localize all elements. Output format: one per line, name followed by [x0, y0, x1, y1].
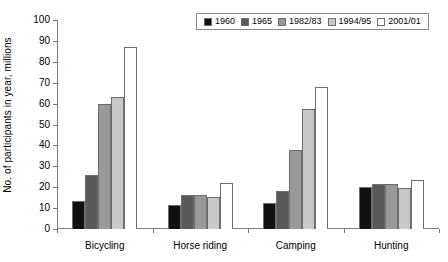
y-tick-mark	[53, 125, 57, 126]
bar[interactable]	[359, 187, 372, 229]
legend-label: 2001/01	[388, 17, 421, 26]
y-tick-mark	[53, 145, 57, 146]
y-tick-mark	[53, 62, 57, 63]
legend-item[interactable]: 1965	[241, 17, 272, 26]
y-tick-mark	[53, 208, 57, 209]
y-axis-title-label: No. of participants in year, millions	[3, 37, 13, 192]
y-tick-label: 80	[39, 57, 50, 67]
x-tick-mark	[248, 229, 249, 233]
bar[interactable]	[220, 183, 233, 229]
bar[interactable]	[315, 87, 328, 229]
legend-item[interactable]: 1982/83	[278, 17, 322, 26]
legend-swatch-icon	[241, 18, 249, 26]
x-axis-category-label: Bicycling	[72, 241, 137, 251]
x-axis-category-label: Camping	[263, 241, 328, 251]
legend-swatch-icon	[278, 18, 286, 26]
x-axis-category-label: Hunting	[359, 241, 424, 251]
bar[interactable]	[98, 104, 111, 229]
bar-group: Horse riding	[168, 20, 233, 229]
legend: 196019651982/831994/952001/01	[196, 13, 429, 30]
x-tick-mark	[344, 229, 345, 233]
y-tick-label: 90	[39, 36, 50, 46]
x-axis-category-label: Horse riding	[168, 241, 233, 251]
bar[interactable]	[72, 201, 85, 229]
y-tick-label: 60	[39, 99, 50, 109]
bar-group: Bicycling	[72, 20, 137, 229]
y-tick-mark	[53, 20, 57, 21]
x-tick-mark	[57, 229, 58, 233]
x-tick-mark	[439, 229, 440, 233]
legend-item[interactable]: 1960	[204, 17, 235, 26]
y-tick-label: 20	[39, 182, 50, 192]
y-tick-mark	[53, 104, 57, 105]
bar[interactable]	[181, 195, 194, 229]
bar-group: Hunting	[359, 20, 424, 229]
bar[interactable]	[372, 184, 385, 229]
y-tick-mark	[53, 41, 57, 42]
bars	[168, 20, 233, 229]
legend-swatch-icon	[204, 18, 212, 26]
bars	[359, 20, 424, 229]
y-tick-mark	[53, 187, 57, 188]
bar[interactable]	[411, 180, 424, 229]
y-axis-line	[57, 20, 58, 229]
legend-item[interactable]: 2001/01	[377, 17, 421, 26]
bar[interactable]	[276, 191, 289, 229]
y-tick-label: 40	[39, 140, 50, 150]
bar[interactable]	[385, 184, 398, 229]
y-tick-mark	[53, 83, 57, 84]
legend-label: 1960	[215, 17, 235, 26]
y-axis-title: No. of participants in year, millions	[0, 0, 16, 230]
bar[interactable]	[124, 47, 137, 229]
plot-area: 1009080706050403020100 BicyclingHorse ri…	[57, 20, 439, 229]
y-tick-label: 30	[39, 161, 50, 171]
legend-label: 1965	[252, 17, 272, 26]
y-tick-label: 0	[44, 224, 50, 234]
y-tick-label: 100	[33, 15, 50, 25]
bar[interactable]	[168, 205, 181, 229]
bar[interactable]	[111, 97, 124, 229]
bar-group: Camping	[263, 20, 328, 229]
legend-label: 1982/83	[289, 17, 322, 26]
legend-swatch-icon	[377, 18, 385, 26]
bar[interactable]	[263, 203, 276, 229]
bar[interactable]	[398, 188, 411, 229]
y-tick-label: 50	[39, 120, 50, 130]
legend-label: 1994/95	[339, 17, 372, 26]
bar[interactable]	[302, 109, 315, 229]
y-tick-mark	[53, 166, 57, 167]
x-tick-mark	[153, 229, 154, 233]
y-tick-label: 70	[39, 78, 50, 88]
bar[interactable]	[289, 150, 302, 229]
bar[interactable]	[194, 195, 207, 229]
bar[interactable]	[207, 197, 220, 229]
bars	[72, 20, 137, 229]
legend-items: 196019651982/831994/952001/01	[201, 17, 424, 26]
legend-swatch-icon	[328, 18, 336, 26]
y-tick-label: 10	[39, 203, 50, 213]
bar-chart: No. of participants in year, millions 10…	[0, 0, 448, 262]
legend-item[interactable]: 1994/95	[328, 17, 372, 26]
bars	[263, 20, 328, 229]
bar[interactable]	[85, 175, 98, 229]
